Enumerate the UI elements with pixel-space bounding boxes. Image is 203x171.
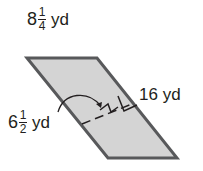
- side-text: 16 yd: [139, 85, 181, 105]
- base-whole: 8: [27, 9, 37, 30]
- base-denominator: 4: [39, 21, 46, 32]
- height-unit: yd: [32, 113, 50, 133]
- base-fraction: 1 4: [38, 7, 46, 32]
- height-fraction: 1 2: [19, 110, 27, 135]
- side-label: 16 yd: [139, 85, 181, 105]
- base-label: 8 1 4 yd: [27, 7, 69, 32]
- height-label: 6 1 2 yd: [8, 110, 50, 135]
- base-numerator: 1: [39, 7, 46, 18]
- height-whole: 6: [8, 112, 18, 133]
- height-numerator: 1: [20, 110, 27, 121]
- base-unit: yd: [51, 10, 69, 30]
- height-denominator: 2: [20, 124, 27, 135]
